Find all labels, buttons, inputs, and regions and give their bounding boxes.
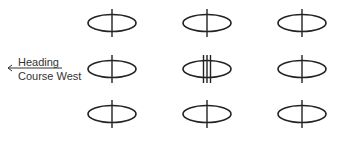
course-label: Course West xyxy=(18,70,81,82)
ellipse-symbol-r1c2 xyxy=(183,9,231,37)
ellipse-symbol-r2c3 xyxy=(278,55,326,83)
ellipse-symbol-r3c3 xyxy=(278,100,326,128)
ellipse-symbol-r3c1 xyxy=(88,100,136,128)
ellipse-symbol-r3c2 xyxy=(183,100,231,128)
ellipse-symbol-r1c1 xyxy=(88,9,136,37)
ellipse-symbol-r1c3 xyxy=(278,9,326,37)
heading-label: Heading xyxy=(18,56,59,68)
ellipse-symbol-r2c1 xyxy=(88,55,136,83)
ellipse-symbol-r2c2 xyxy=(183,55,231,83)
